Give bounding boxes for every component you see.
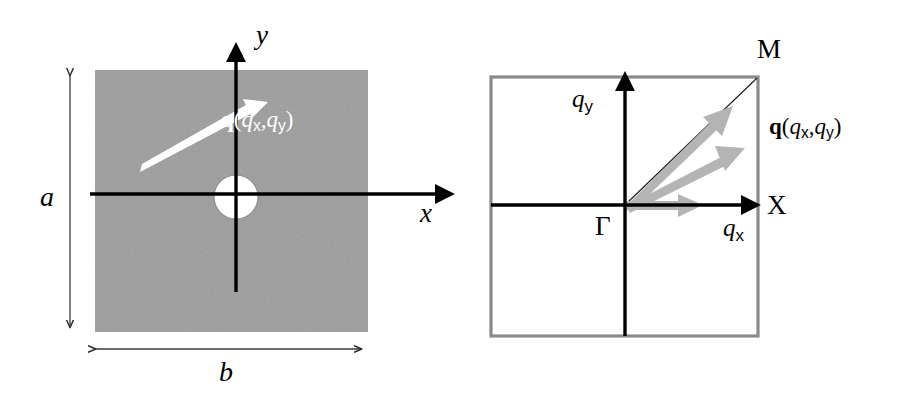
x-point-label: X bbox=[767, 192, 787, 219]
q-vector-arrows-gray bbox=[625, 106, 745, 217]
qy-subscript-left: y bbox=[278, 117, 286, 134]
dimension-label-b: b bbox=[219, 358, 233, 386]
qx-symbol-right: q bbox=[789, 114, 801, 139]
left-panel-graphics bbox=[70, 55, 442, 349]
right-panel-graphics bbox=[491, 77, 758, 336]
q-symbol-bold-left: q bbox=[221, 107, 234, 132]
gamma-m-guide-line bbox=[627, 78, 757, 203]
dimension-label-a: a bbox=[40, 183, 54, 211]
q-vector-label-right: q(qx,qy) bbox=[769, 115, 842, 141]
q-symbol-bold-right: q bbox=[769, 114, 782, 139]
qy-symbol-left: q bbox=[267, 107, 279, 132]
gamma-point-label: Γ bbox=[595, 213, 611, 240]
qx-symbol-left: q bbox=[241, 107, 253, 132]
q-vector-label-left: q(qx,qy) bbox=[221, 108, 294, 134]
qx-subscript-left: x bbox=[253, 117, 261, 134]
qy-axis-label-sub: y bbox=[585, 97, 594, 116]
qy-subscript-right: y bbox=[826, 124, 834, 141]
qx-subscript-right: x bbox=[801, 124, 809, 141]
qx-axis-label-base: q bbox=[723, 214, 736, 241]
q-paren-close-right: ) bbox=[834, 114, 842, 139]
q-paren-close-left: ) bbox=[286, 107, 294, 132]
qy-axis-label: qy bbox=[572, 86, 593, 115]
qy-axis-label-base: q bbox=[572, 85, 585, 112]
m-point-label: M bbox=[757, 36, 781, 63]
qy-symbol-right: q bbox=[815, 114, 827, 139]
qx-axis-label: qx bbox=[723, 215, 744, 244]
qx-axis-label-sub: x bbox=[736, 226, 745, 245]
x-axis-label-y: y bbox=[256, 22, 268, 49]
figure-root: y x a b q(qx,qy) qy qx Γ X M q(qx,qy) bbox=[0, 0, 909, 400]
x-axis-label-x: x bbox=[420, 200, 432, 227]
